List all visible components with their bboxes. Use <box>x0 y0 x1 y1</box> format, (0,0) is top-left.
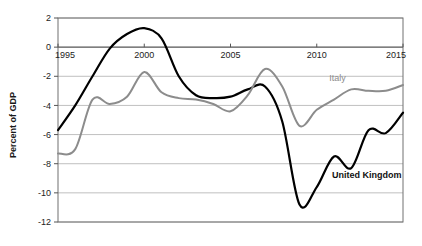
y-tick-label--8: -8 <box>43 159 51 169</box>
y-tick-label-0: 0 <box>46 42 51 52</box>
series-label-united-kingdom: United Kingdom <box>332 170 402 180</box>
y-tick-label--6: -6 <box>43 130 51 140</box>
series-label-italy: Italy <box>329 73 346 83</box>
x-tick-label-2000: 2000 <box>134 50 154 60</box>
chart-container: 20-2-4-6-8-10-12 19952000200520102015 It… <box>0 0 422 246</box>
x-tick-label-1995: 1995 <box>55 50 75 60</box>
x-tick-label-2010: 2010 <box>307 50 327 60</box>
y-axis-title: Percent of GDP <box>8 92 18 158</box>
x-tick-label-2005: 2005 <box>220 50 240 60</box>
x-tick-label-2015: 2015 <box>386 50 406 60</box>
y-tick-label--4: -4 <box>43 101 51 111</box>
y-tick-label-2: 2 <box>46 13 51 23</box>
y-tick-label--12: -12 <box>38 217 51 227</box>
y-axis-title-text: Percent of GDP <box>8 92 18 158</box>
y-tick-label--2: -2 <box>43 71 51 81</box>
gdp-deficit-line-chart: 20-2-4-6-8-10-12 19952000200520102015 It… <box>0 0 422 246</box>
y-tick-label--10: -10 <box>38 188 51 198</box>
